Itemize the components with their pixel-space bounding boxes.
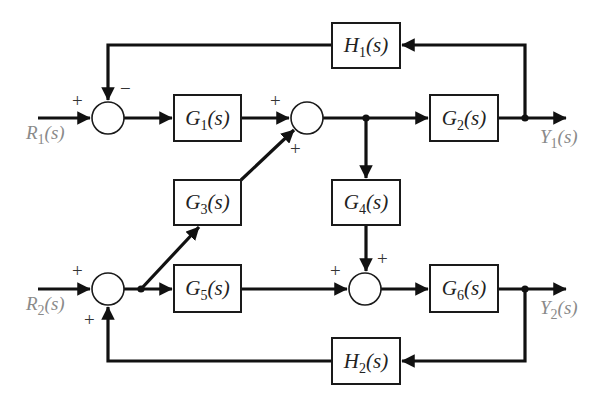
wire-h2-to-s3 xyxy=(108,307,332,361)
block-g1: G1(s) xyxy=(174,95,241,141)
block-g4: G4(s) xyxy=(332,180,400,225)
wire-h1-to-s1 xyxy=(108,45,332,100)
block-g5: G5(s) xyxy=(174,265,241,312)
sign-s1-top: − xyxy=(120,78,131,99)
svg-text:G4(s): G4(s) xyxy=(344,190,388,217)
svg-text:G3(s): G3(s) xyxy=(185,190,229,217)
svg-text:G6(s): G6(s) xyxy=(442,276,486,303)
svg-text:G2(s): G2(s) xyxy=(442,106,486,133)
input-label-r1: R1(s) xyxy=(25,122,65,147)
sign-s2-bottom: + xyxy=(290,138,301,159)
block-g6: G6(s) xyxy=(430,265,498,312)
block-h2: H2(s) xyxy=(332,338,400,384)
svg-text:G1(s): G1(s) xyxy=(185,106,229,133)
sign-s1-left: + xyxy=(72,90,83,111)
sign-s3-left: + xyxy=(72,260,83,281)
block-g2: G2(s) xyxy=(430,95,498,141)
summing-junction-s4 xyxy=(349,273,381,305)
sign-s4-left: + xyxy=(330,260,341,281)
sign-s3-bottom: + xyxy=(84,309,95,330)
branch-point-s3-output xyxy=(137,285,144,292)
wire-g3-to-s2 xyxy=(241,130,294,180)
summing-junction-s1 xyxy=(92,102,124,134)
input-label-r2: R2(s) xyxy=(25,293,65,318)
branch-point-y2 xyxy=(521,285,528,292)
svg-text:H2(s): H2(s) xyxy=(343,349,388,376)
block-diagram: + − + + + + + + G1(s) G2(s) G3(s) G4(s) … xyxy=(0,0,607,401)
output-label-y2: Y2(s) xyxy=(540,297,578,322)
svg-text:G5(s): G5(s) xyxy=(185,276,229,303)
branch-point-s2-output xyxy=(362,114,369,121)
svg-text:H1(s): H1(s) xyxy=(343,33,388,60)
branch-point-y1 xyxy=(521,114,528,121)
block-g3: G3(s) xyxy=(174,180,241,225)
output-label-y1: Y1(s) xyxy=(540,126,578,151)
summing-junction-s3 xyxy=(92,273,124,305)
summing-junction-s2 xyxy=(291,102,323,134)
block-h1: H1(s) xyxy=(332,23,400,68)
signal-wires xyxy=(38,45,566,361)
sign-s4-top: + xyxy=(377,248,388,269)
sign-s2-left: + xyxy=(270,90,281,111)
